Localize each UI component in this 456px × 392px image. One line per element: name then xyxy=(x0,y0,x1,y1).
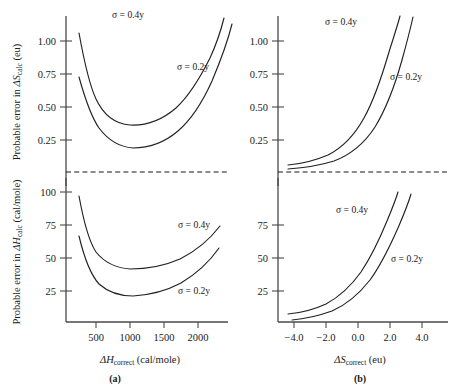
panel-a-xlabel-main: ΔH xyxy=(99,354,115,365)
panel-b-top-label-sigma02: σ = 0.2y xyxy=(390,71,422,82)
panel-a-bottom-ylabel-unit: (cal/mole) xyxy=(11,179,23,223)
panel-b-top-axes: 1.00 0.75 0.50 0.25 xyxy=(250,16,284,186)
panel-b-top-ytick-3: 0.25 xyxy=(250,135,268,146)
panel-a-bottom-axes: 100 75 50 25 500 1000 1500 2000 xyxy=(40,178,228,343)
svg-text:Probable error in ΔHcalc (cal/: Probable error in ΔHcalc (cal/mole) xyxy=(11,179,24,325)
panel-a-bottom-label-sigma02: σ = 0.2y xyxy=(178,285,210,296)
panel-b-bottom-ytick-0: 75 xyxy=(258,220,269,231)
panel-a-bottom-ytick-3: 25 xyxy=(46,286,57,297)
panel-a-top-ylabel-unit: (eu) xyxy=(11,43,23,60)
panel-b-bottom-label-sigma02: σ = 0.2y xyxy=(391,253,423,264)
panel-a-caption: (a) xyxy=(109,373,121,385)
panel-a-top-ytick-1: 0.75 xyxy=(38,69,56,80)
panel-b-bottom-label-sigma04: σ = 0.4y xyxy=(336,204,368,215)
panel-b-xlabel-sub: correct xyxy=(346,358,367,367)
panel-a-xtick-3: 2000 xyxy=(188,332,209,343)
panel-a-bottom-ylabel-main: ΔH xyxy=(11,236,22,252)
panel-b-top-ytick-0: 1.00 xyxy=(250,36,268,47)
panel-b-top-curve-sigma02 xyxy=(288,17,413,169)
panel-a-xtick-0: 500 xyxy=(88,332,104,343)
panel-a-top-ylabel-prefix: Probable error in xyxy=(11,88,22,160)
panel-b: 1.00 0.75 0.50 0.25 σ = 0.4y σ = 0.2y 75… xyxy=(250,16,448,385)
panel-b-bottom-ytick-2: 25 xyxy=(258,286,269,297)
panel-a-xlabel-sub: correct xyxy=(114,358,135,367)
panel-b-xlabel: ΔScorrect (eu) xyxy=(333,354,386,367)
panel-a-xtick-1: 1000 xyxy=(120,332,141,343)
panel-b-top-label-sigma04: σ = 0.4y xyxy=(325,16,357,27)
panel-a-bottom-curve-sigma04 xyxy=(79,196,220,269)
panel-b-xtick-3: 2.0 xyxy=(383,332,396,343)
panel-b-caption: (b) xyxy=(354,373,366,385)
panel-a-top-axes: 1.00 0.75 0.50 0.25 xyxy=(38,16,72,186)
panel-a-top-ytick-2: 0.50 xyxy=(38,102,56,113)
figure-canvas: 1.00 0.75 0.50 0.25 σ = 0.4y σ = 0.2y 10… xyxy=(0,0,456,392)
panel-b-xlabel-unit: (eu) xyxy=(369,354,386,366)
panel-a-bottom-label-sigma04: σ = 0.4y xyxy=(178,219,210,230)
panel-b-xtick-2: 0.0 xyxy=(351,332,364,343)
panel-a-top-ytick-3: 0.25 xyxy=(38,135,56,146)
panel-a-top-ylabel-sub: calc xyxy=(15,63,24,76)
panel-b-xtick-1: −2.0 xyxy=(316,332,335,343)
panel-a-xlabel: ΔHcorrect (cal/mole) xyxy=(99,354,181,367)
panel-a-bottom-ytick-2: 50 xyxy=(46,253,57,264)
panel-a-top-ytick-0: 1.00 xyxy=(38,36,56,47)
panel-a-bottom-ylabel-prefix: Probable error in xyxy=(11,253,22,325)
panel-b-top-ytick-2: 0.50 xyxy=(250,102,268,113)
panel-a-top-curve-sigma02 xyxy=(79,24,232,148)
panel-a-bottom-ytick-1: 75 xyxy=(46,220,57,231)
panel-b-top-curve-sigma04 xyxy=(288,16,400,165)
panel-a-bottom-xticks xyxy=(96,322,198,328)
panel-a-bottom-ylabel: Probable error in ΔHcalc (cal/mole) xyxy=(11,179,24,325)
panel-a: 1.00 0.75 0.50 0.25 σ = 0.4y σ = 0.2y 10… xyxy=(11,9,232,385)
panel-b-bottom-xticks xyxy=(294,322,422,328)
panel-a-xlabel-unit: (cal/mole) xyxy=(137,354,181,366)
panel-a-bottom-ylabel-sub: calc xyxy=(15,224,24,237)
panel-a-xtick-2: 1500 xyxy=(154,332,175,343)
panel-b-top-ytick-1: 0.75 xyxy=(250,69,268,80)
panel-b-bottom-ytick-1: 50 xyxy=(258,253,269,264)
figure-root: 1.00 0.75 0.50 0.25 σ = 0.4y σ = 0.2y 10… xyxy=(0,0,456,392)
panel-a-top-ylabel: Probable error in ΔScalc (eu) xyxy=(11,43,24,160)
panel-a-top-label-sigma04: σ = 0.4y xyxy=(112,9,144,20)
panel-b-xtick-4: 4.0 xyxy=(415,332,428,343)
panel-a-bottom-ytick-0: 100 xyxy=(40,187,56,198)
panel-a-top-ylabel-main: ΔS xyxy=(11,74,22,87)
panel-b-xlabel-main: ΔS xyxy=(333,354,346,365)
panel-b-xtick-0: −4.0 xyxy=(284,332,303,343)
svg-text:Probable error in ΔScalc (eu): Probable error in ΔScalc (eu) xyxy=(11,43,24,160)
panel-a-top-label-sigma02: σ = 0.2y xyxy=(177,61,209,72)
